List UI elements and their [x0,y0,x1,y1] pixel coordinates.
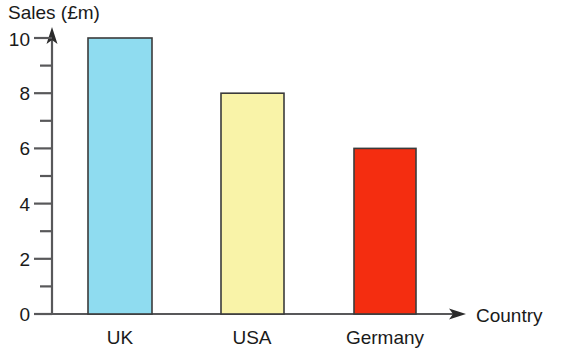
x-category-label-germany: Germany [346,327,425,348]
x-axis-title: Country [476,305,543,326]
y-axis-title: Sales (£m) [8,2,100,23]
x-category-label-uk: UK [107,327,134,348]
y-tick-label-2: 2 [19,249,30,270]
bar-usa [221,93,284,314]
y-tick-label-4: 4 [19,194,30,215]
y-tick-label-8: 8 [19,83,30,104]
y-axis-minor-ticks [40,66,52,287]
y-tick-label-10: 10 [9,29,30,50]
x-category-label-usa: USA [232,327,271,348]
y-tick-label-6: 6 [19,138,30,159]
bar-uk [88,38,152,314]
chart-canvas: 0 2 4 6 8 10 Sales (£m) Country UK USA G… [0,0,571,354]
bar-chart: 0 2 4 6 8 10 Sales (£m) Country UK USA G… [0,0,571,354]
bar-germany [354,148,416,314]
y-tick-label-0: 0 [19,304,30,325]
